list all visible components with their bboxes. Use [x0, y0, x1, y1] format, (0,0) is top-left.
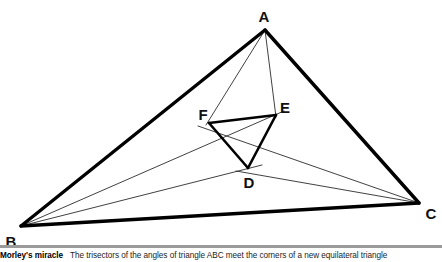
vertex-label-group: A B C D E F — [6, 8, 437, 246]
vertex-label-a: A — [259, 8, 270, 25]
caption-body: The trisectors of the angles of triangle… — [70, 251, 387, 260]
vertex-label-e: E — [280, 99, 290, 116]
edge-e-d — [248, 115, 276, 168]
trisector-line-group — [21, 30, 419, 226]
edge-c-a — [265, 30, 419, 203]
vertex-label-f: F — [198, 106, 207, 123]
trisector-c-to-d — [236, 171, 419, 203]
edge-a-b — [21, 30, 265, 226]
figure-container: A B C D E F Morley's miracleThe trisecto… — [0, 0, 442, 262]
edge-b-c — [21, 203, 419, 226]
vertex-label-c: C — [426, 205, 437, 222]
morley-triangle-diagram: A B C D E F — [0, 0, 442, 246]
trisector-b-to-e — [21, 111, 284, 226]
figure-caption: Morley's miracleThe trisectors of the an… — [0, 250, 442, 262]
trisector-a-to-f — [206, 30, 265, 125]
caption-title: Morley's miracle — [0, 251, 63, 260]
caption-divider — [0, 245, 442, 248]
vertex-label-d: D — [244, 174, 255, 191]
outer-triangle-abc — [21, 30, 419, 226]
